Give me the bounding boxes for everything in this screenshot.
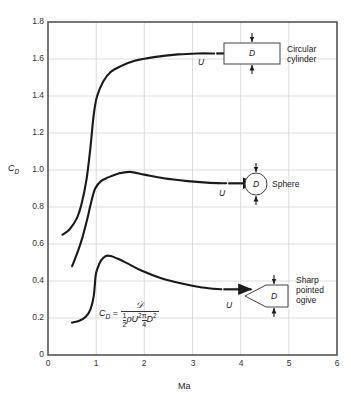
x-tick-2: 2 [137, 359, 151, 368]
y-tick-0-6: 0.6 [18, 239, 44, 248]
y-tick-0-2: 0.2 [18, 313, 44, 322]
x-axis-label: Ma [178, 381, 191, 391]
x-tick-5: 5 [282, 359, 296, 368]
x-tick-1: 1 [89, 359, 103, 368]
formula-fraction: 𝒟 12ρU2π4D2 [121, 300, 159, 328]
diameter-label-cylinder: D [249, 48, 255, 58]
label-ogive-line3: ogive [296, 295, 316, 305]
curve-sphere [72, 172, 226, 266]
diameter-label-ogive: D [271, 291, 277, 301]
x-tick-4: 4 [234, 359, 248, 368]
formula-equals: = [113, 308, 118, 318]
x-tick-0: 0 [41, 359, 55, 368]
y-tick-0: 0 [18, 350, 44, 359]
formula-lhs-sub: D [106, 313, 111, 320]
formula-denominator: 12ρU2π4D2 [121, 311, 159, 328]
label-circular-cylinder-line1: Circular [287, 44, 316, 54]
formula-d-exp: 2 [153, 312, 157, 319]
velocity-label-sphere: U [219, 188, 225, 198]
label-ogive-line1: Sharp [296, 275, 319, 285]
label-sphere: Sphere [272, 179, 299, 189]
y-tick-1-2: 1.2 [18, 128, 44, 137]
y-tick-0-8: 0.8 [18, 202, 44, 211]
x-tick-3: 3 [186, 359, 200, 368]
velocity-label-cylinder: U [198, 57, 204, 67]
y-axis-label: CD [8, 163, 19, 175]
y-tick-1-4: 1.4 [18, 91, 44, 100]
curve-circular-cylinder [62, 53, 214, 234]
y-tick-1-6: 1.6 [18, 54, 44, 63]
velocity-label-ogive: U [226, 300, 232, 310]
label-ogive-line2: pointed [296, 285, 324, 295]
drag-coefficient-formula: CD = 𝒟 12ρU2π4D2 [99, 300, 159, 328]
y-tick-1-8: 1.8 [18, 17, 44, 26]
y-tick-0-4: 0.4 [18, 276, 44, 285]
label-circular-cylinder-line2: cylinder [287, 54, 316, 64]
formula-numerator: 𝒟 [121, 300, 159, 311]
drag-coefficient-chart: 1.8 1.6 1.4 1.2 1.0 0.8 0.6 0.4 0.2 0 0 … [0, 0, 351, 407]
diameter-label-sphere: D [253, 179, 259, 189]
label-circular-cylinder: Circular cylinder [287, 44, 316, 64]
label-sharp-pointed-ogive: Sharp pointed ogive [296, 275, 324, 305]
y-tick-1-0: 1.0 [18, 165, 44, 174]
x-tick-6: 6 [330, 359, 344, 368]
